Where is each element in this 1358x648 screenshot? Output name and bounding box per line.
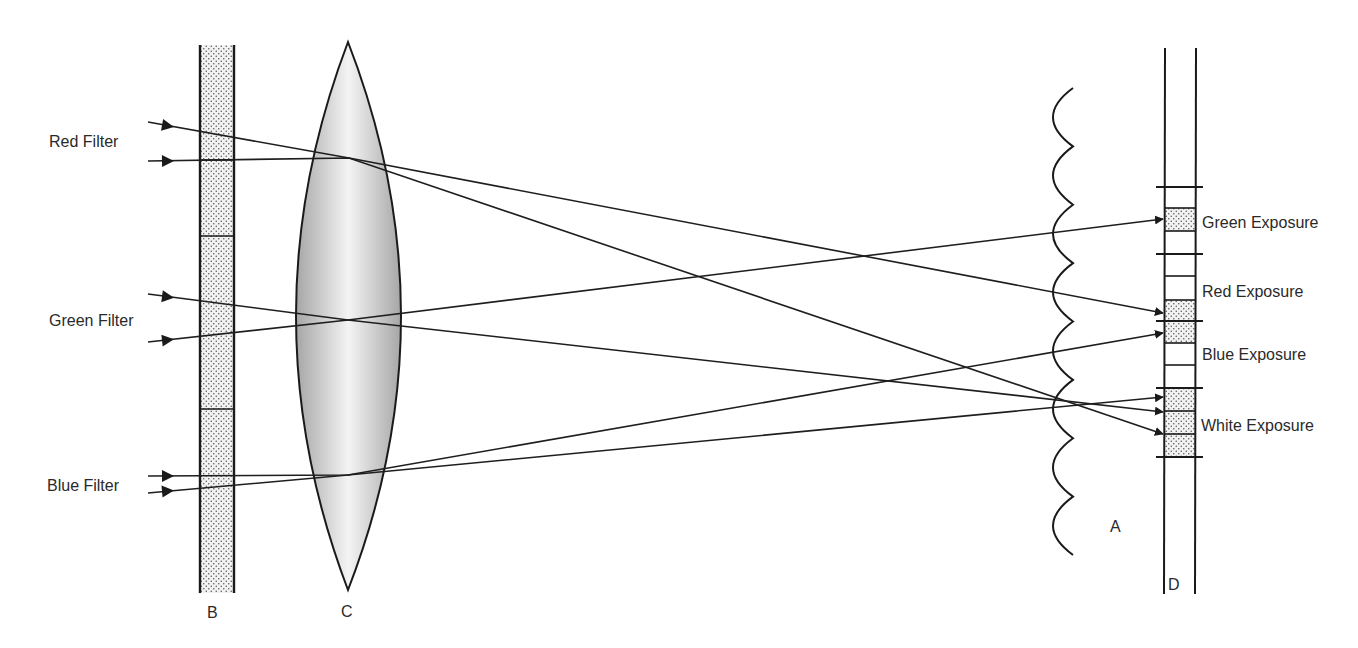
- label-blue-filter: Blue Filter: [47, 477, 120, 494]
- arrowhead-icon: [162, 155, 174, 167]
- lenticular-color-diagram: Red Filter Green Filter Blue Filter Gree…: [0, 0, 1358, 648]
- lenticule-scallops: [1053, 88, 1073, 555]
- label-green-filter: Green Filter: [49, 312, 134, 329]
- label-white-exposure: White Exposure: [1201, 417, 1314, 434]
- label-green-exposure: Green Exposure: [1202, 214, 1319, 231]
- arrowhead-icon: [161, 290, 174, 302]
- arrowhead-icon: [162, 470, 174, 482]
- label-a: A: [1110, 518, 1121, 535]
- exposure-cell-exposed: [1165, 388, 1196, 411]
- label-red-filter: Red Filter: [49, 133, 119, 150]
- filter-band-fill: [200, 45, 234, 593]
- exposure-cell-exposed: [1165, 411, 1196, 434]
- arrowhead-icon: [161, 119, 174, 131]
- film-strip-d: [1156, 48, 1203, 594]
- arrowhead-icon: [161, 486, 173, 498]
- label-b: B: [207, 604, 218, 621]
- label-blue-exposure: Blue Exposure: [1202, 346, 1306, 363]
- exposure-cell-exposed: [1165, 321, 1196, 343]
- arrowhead-icon: [161, 335, 174, 347]
- exposure-cell-exposed: [1165, 300, 1196, 321]
- lenticular-screen-a: [1053, 88, 1073, 555]
- label-d: D: [1168, 576, 1180, 593]
- label-red-exposure: Red Exposure: [1202, 283, 1303, 300]
- label-c: C: [341, 603, 353, 620]
- exposure-cell-exposed: [1165, 434, 1196, 457]
- ray-blue-bottom: [148, 397, 1163, 493]
- filter-band-b: [200, 45, 234, 593]
- exposure-cell-exposed: [1165, 208, 1196, 231]
